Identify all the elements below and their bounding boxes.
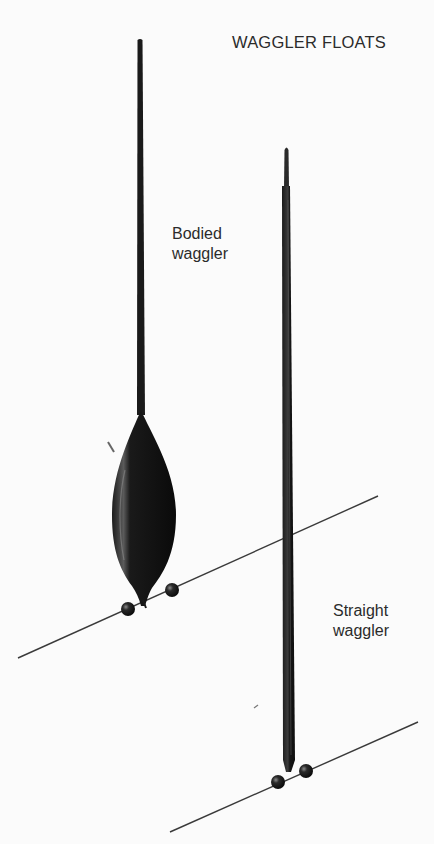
line-upper [18,496,378,658]
locking-shot-straight-right [299,764,313,778]
locking-shot-bodied-left [121,602,135,616]
locking-shot-bodied-right [165,583,179,597]
bodied-waggler-float [112,39,176,608]
straight-waggler-float [282,148,295,773]
print-speck [108,442,114,452]
print-speck [254,705,258,708]
locking-shot-straight-left [271,775,285,789]
float-illustration [0,0,434,844]
